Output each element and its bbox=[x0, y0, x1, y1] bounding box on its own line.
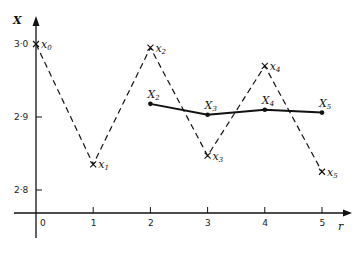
point-label: x2 bbox=[155, 42, 166, 56]
point-label: X4 bbox=[261, 94, 274, 108]
y-axis-arrow-icon bbox=[33, 16, 40, 26]
x-tick-label: 4 bbox=[262, 218, 268, 228]
x-axis-label: r bbox=[338, 220, 344, 233]
cross-marker-icon bbox=[319, 169, 325, 175]
y-tick-label: 2·9 bbox=[14, 112, 29, 122]
point-label: x3 bbox=[213, 150, 224, 164]
point-label: X5 bbox=[318, 97, 332, 111]
axes: rX0123452·82·93·0 bbox=[12, 14, 352, 238]
x-tick-label: 1 bbox=[91, 218, 97, 228]
y-tick-label: 2·8 bbox=[14, 185, 29, 195]
x-tick-label: 5 bbox=[320, 218, 326, 228]
cross-marker-icon bbox=[147, 45, 153, 51]
series: x0x1x2x3x4x5X2X3X4X5 bbox=[33, 38, 338, 180]
point-label: X3 bbox=[204, 99, 218, 113]
dot-marker-icon bbox=[148, 102, 153, 107]
point-label: x1 bbox=[98, 158, 109, 172]
point-label: X2 bbox=[146, 88, 160, 102]
dot-marker-icon bbox=[205, 113, 210, 118]
point-label: x0 bbox=[41, 38, 52, 52]
x-tick-label: 3 bbox=[205, 218, 211, 228]
x-axis-arrow-icon bbox=[343, 210, 352, 217]
x-tick-label: 0 bbox=[40, 218, 46, 228]
dot-marker-icon bbox=[263, 107, 268, 112]
y-axis-label: X bbox=[12, 14, 22, 27]
dashed-series-line bbox=[36, 44, 322, 172]
cross-marker-icon bbox=[90, 161, 96, 167]
y-tick-label: 3·0 bbox=[14, 39, 29, 49]
cross-marker-icon bbox=[262, 63, 268, 69]
solid-series-line bbox=[150, 104, 322, 115]
dot-marker-icon bbox=[320, 110, 325, 115]
point-label: x5 bbox=[327, 166, 338, 180]
chart: rX0123452·82·93·0 x0x1x2x3x4x5X2X3X4X5 bbox=[0, 0, 364, 254]
x-tick-label: 2 bbox=[148, 218, 154, 228]
cross-marker-icon bbox=[205, 153, 211, 159]
point-label: x4 bbox=[270, 60, 281, 74]
